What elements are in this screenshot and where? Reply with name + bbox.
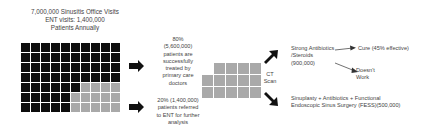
grid-cell-gray: [111, 103, 120, 112]
grid-cell-black: [101, 43, 110, 52]
ent-referral-text: 20% (1,400,000) patients referred to ENT…: [146, 97, 210, 126]
primary-care-text: 80% (5,600,000) patients are successfull…: [150, 36, 206, 87]
surgery-line: Sinuplasty + Antibiotics + Functional: [291, 95, 421, 102]
grid-cell-black: [41, 103, 50, 112]
header-patients-annually: Patients Annually: [20, 24, 130, 32]
grid-cell-gray: [91, 93, 100, 102]
grid-cell-black: [31, 43, 40, 52]
grid-cell-black: [21, 83, 30, 92]
grid-cell-black: [101, 63, 110, 72]
grid-cell-black: [91, 53, 100, 62]
ent-grid-cell: [226, 75, 237, 86]
grid-cell-black: [51, 63, 60, 72]
grid-cell-black: [91, 43, 100, 52]
grid-cell-black: [71, 73, 80, 82]
primary-care-percent: 80%: [150, 36, 206, 43]
ent-referral-desc: analysis: [146, 119, 210, 126]
grid-cell-black: [71, 83, 80, 92]
primary-care-desc: successfully: [150, 58, 206, 65]
ent-grid-cell: [202, 87, 213, 98]
grid-cell-black: [81, 53, 90, 62]
grid-cell-black: [31, 93, 40, 102]
surgery-text: Sinuplasty + Antibiotics + Functional En…: [291, 95, 421, 110]
arrow-up-right-icon: [264, 50, 280, 66]
grid-cell-black: [21, 63, 30, 72]
grid-cell-gray: [81, 83, 90, 92]
primary-care-desc: doctors: [150, 80, 206, 87]
grid-cell-black: [111, 63, 120, 72]
grid-cell-gray: [101, 93, 110, 102]
header-title: 7,000,000 Sinusitis Office Visits: [20, 8, 130, 16]
grid-cell-black: [61, 103, 70, 112]
ent-grid-cell: [214, 87, 225, 98]
grid-cell-black: [51, 83, 60, 92]
grid-cell-black: [41, 83, 50, 92]
doesnt-work-line: Doesn't: [356, 67, 396, 74]
cure-text: Cure (45% effective): [358, 45, 422, 52]
grid-cell-black: [81, 43, 90, 52]
grid-cell-black: [21, 73, 30, 82]
ent-referral-desc: patients referred: [146, 104, 210, 111]
grid-cell-black: [61, 63, 70, 72]
grid-cell-gray: [111, 83, 120, 92]
header: 7,000,000 Sinusitis Office Visits ENT vi…: [20, 8, 130, 32]
grid-cell-black: [51, 103, 60, 112]
grid-cell-black: [41, 93, 50, 102]
grid-cell-black: [51, 73, 60, 82]
grid-cell-black: [111, 73, 120, 82]
grid-cell-black: [71, 43, 80, 52]
grid-cell-black: [41, 53, 50, 62]
ent-grid-cell: [238, 87, 249, 98]
grid-cell-black: [31, 53, 40, 62]
ct-scan-label-line: CT: [258, 71, 282, 78]
grid-cell-gray: [71, 93, 80, 102]
ent-grid-cell: [250, 87, 261, 98]
ent-referral-percent: 20% (1,400,000): [146, 97, 210, 104]
grid-cell-gray: [71, 103, 80, 112]
grid-cell-gray: [101, 103, 110, 112]
grid-cell-black: [91, 73, 100, 82]
header-ent-visits: ENT visits: 1,400,000: [20, 16, 130, 24]
grid-cell-black: [111, 43, 120, 52]
arrow-down-right-icon: [264, 92, 280, 108]
grid-cell-black: [31, 103, 40, 112]
doesnt-work-line: Work: [356, 74, 396, 81]
grid-cell-black: [101, 73, 110, 82]
thin-arrow-icon: [335, 44, 357, 54]
grid-cell-gray: [81, 103, 90, 112]
grid-cell-black: [101, 53, 110, 62]
grid-cell-black: [51, 53, 60, 62]
grid-cell-black: [81, 63, 90, 72]
grid-cell-black: [91, 63, 100, 72]
surgery-line: Endoscopic Sinus Surgery (FESS)(500,000): [291, 102, 421, 109]
grid-cell-black: [41, 63, 50, 72]
grid-cell-black: [21, 103, 30, 112]
grid-cell-black: [51, 43, 60, 52]
primary-care-desc: patients are: [150, 51, 206, 58]
grid-cell-black: [41, 43, 50, 52]
grid-cell-black: [61, 83, 70, 92]
grid-cell-black: [41, 73, 50, 82]
grid-cell-black: [61, 93, 70, 102]
primary-care-desc: primary care: [150, 72, 206, 79]
grid-cell-black: [111, 53, 120, 62]
patients-waffle-grid: [21, 43, 120, 112]
arrow-right-icon: [129, 101, 145, 113]
ct-scan-label: CT Scan: [258, 71, 282, 86]
grid-cell-black: [81, 73, 90, 82]
ent-grid-cell: [226, 63, 237, 74]
arrow-right-icon: [129, 60, 145, 72]
grid-cell-gray: [91, 103, 100, 112]
grid-cell-black: [21, 43, 30, 52]
ent-grid-cell: [214, 63, 225, 74]
grid-cell-black: [61, 73, 70, 82]
grid-cell-black: [61, 53, 70, 62]
ent-grid-cell: [226, 87, 237, 98]
grid-cell-black: [31, 73, 40, 82]
primary-care-count: (5,600,000): [150, 43, 206, 50]
grid-cell-gray: [91, 83, 100, 92]
grid-cell-black: [21, 93, 30, 102]
grid-cell-black: [61, 43, 70, 52]
doesnt-work-text: Doesn't Work: [356, 67, 396, 82]
grid-cell-gray: [111, 93, 120, 102]
